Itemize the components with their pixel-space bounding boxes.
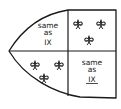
quarter-text-line: as: [44, 28, 53, 37]
quarter-text-line: IX: [44, 38, 51, 47]
shield-diagram: same as IX same as IX: [0, 0, 121, 109]
quarter-text-line: IX: [88, 75, 95, 84]
quarter-text-line: as: [88, 65, 97, 74]
